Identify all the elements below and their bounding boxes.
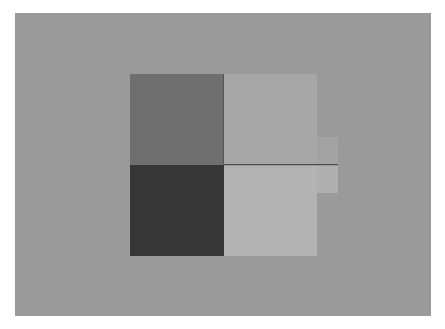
block-bottom-left [130, 165, 224, 256]
background-panel [15, 13, 431, 316]
divider-horizontal [224, 164, 338, 165]
block-top-right-extension [317, 137, 338, 165]
divider-vertical [223, 74, 224, 165]
block-top-right [224, 74, 317, 165]
block-bottom-right-tab [317, 166, 338, 193]
block-bottom-right [224, 166, 317, 256]
block-top-left [130, 74, 224, 165]
